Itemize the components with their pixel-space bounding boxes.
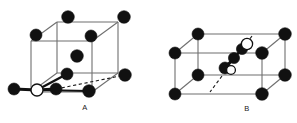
- atom-vertex-front-top-right: [85, 30, 97, 42]
- atom-vertex-back-bottom-left: [192, 69, 204, 81]
- atom-atom-open-lower: [227, 66, 236, 75]
- atom-vertex-front-top-left: [169, 47, 181, 59]
- atom-vertex-front-bottom-right: [256, 88, 269, 101]
- atom-atom-open-corner: [31, 84, 43, 96]
- atom-vertex-front-bottom-left: [169, 88, 181, 100]
- atom-atom-external-left: [8, 83, 20, 95]
- atom-body-center: [71, 50, 84, 63]
- bond-open-to-front: [37, 90, 89, 91]
- crystal-structure-figure: A B: [0, 0, 297, 123]
- atom-atom-bond-right-inner: [50, 83, 62, 95]
- atom-vertex-right-lower: [119, 69, 132, 82]
- panel-b-label: B: [244, 104, 249, 113]
- atom-vertex-back-bottom-right: [279, 69, 292, 82]
- atom-atom-open-upper: [241, 38, 252, 49]
- atom-vertex-front-bottom-mid: [83, 85, 96, 98]
- atom-vertex-front-top-right: [256, 47, 269, 60]
- panel-a-label: A: [82, 103, 87, 112]
- figure-background: [0, 0, 297, 123]
- atom-vertex-back-top-left: [192, 28, 204, 40]
- atom-vertex-front-mid-left: [61, 68, 73, 80]
- atom-vertex-back-top-right: [62, 11, 75, 24]
- atom-chain-atom-mid: [228, 52, 239, 63]
- atom-vertex-top-far-right: [118, 11, 131, 24]
- diagram-svg: A B: [0, 0, 297, 123]
- atom-vertex-back-top-right: [279, 28, 292, 41]
- atom-vertex-back-top-left: [30, 29, 42, 41]
